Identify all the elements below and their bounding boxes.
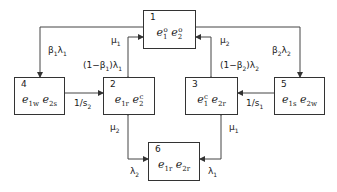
state-label: e1r e2r xyxy=(149,158,199,173)
arrow-2-to-1 xyxy=(128,37,143,77)
label-inv-s2: 1/s2 xyxy=(74,98,91,110)
state-1: 1 e1o e2o xyxy=(143,10,196,49)
label-lambda1-bottom: λ1 xyxy=(208,166,217,178)
arrow-3-to-1 xyxy=(196,37,211,77)
label-mu1-top: μ1 xyxy=(111,35,121,47)
state-label: e1r e2c xyxy=(104,93,154,108)
label-mu1-bottom: μ1 xyxy=(229,122,239,134)
state-2: 2 e1r e2c xyxy=(103,77,155,115)
state-label: e1o e2o xyxy=(144,26,195,41)
label-beta1-lambda1: β1λ1 xyxy=(48,45,67,57)
label-inv-s1: 1/s1 xyxy=(246,98,263,110)
state-label: e1s e2w xyxy=(275,93,324,108)
state-4: 4 e1w e2s xyxy=(14,77,65,115)
arrow-2-to-6 xyxy=(128,115,148,159)
state-5: 5 e1s e2w xyxy=(274,77,325,115)
state-number: 6 xyxy=(155,144,161,154)
state-number: 1 xyxy=(150,12,156,22)
state-label: e1w e2s xyxy=(15,93,64,108)
state-label: e1c e2r xyxy=(186,93,237,108)
label-one-minus-beta2-lambda2: (1−β2)λ2 xyxy=(220,60,259,72)
arrow-3-to-6 xyxy=(200,115,221,159)
state-number: 2 xyxy=(110,79,116,89)
label-mu2-top: μ2 xyxy=(220,35,230,47)
state-number: 4 xyxy=(21,79,27,89)
label-lambda2-bottom: λ2 xyxy=(130,166,139,178)
label-mu2-bottom: μ2 xyxy=(110,122,120,134)
label-beta2-lambda2: β2λ2 xyxy=(272,45,291,57)
label-one-minus-beta1-lambda1: (1−β1)λ1 xyxy=(83,60,122,72)
state-number: 5 xyxy=(281,79,287,89)
state-6: 6 e1r e2r xyxy=(148,142,200,181)
state-number: 3 xyxy=(192,79,198,89)
state-3: 3 e1c e2r xyxy=(185,77,238,115)
